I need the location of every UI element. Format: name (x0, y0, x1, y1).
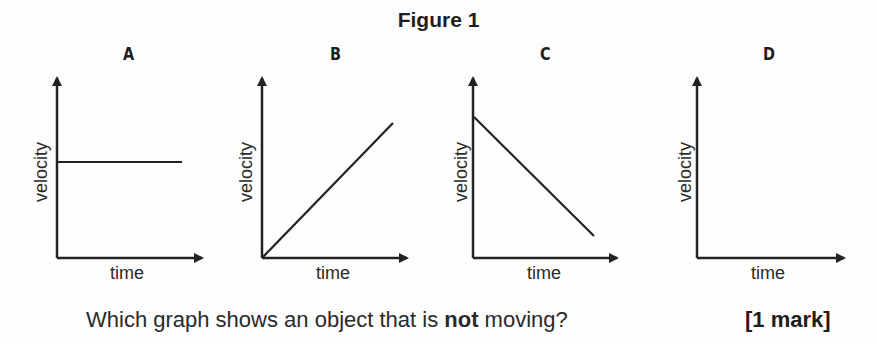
graphs-canvas (0, 0, 877, 300)
question-text: Which graph shows an object that is not … (86, 307, 568, 333)
marks-label: [1 mark] (745, 307, 831, 333)
y-axis-label-d: velocity (675, 142, 696, 202)
x-axis-label-c: time (527, 263, 561, 284)
question-emphasis: not (444, 307, 478, 332)
graph-a (57, 78, 202, 258)
x-axis-label-a: time (110, 263, 144, 284)
x-axis-label-d: time (751, 263, 785, 284)
y-axis-label-b: velocity (236, 142, 257, 202)
x-axis-label-b: time (316, 263, 350, 284)
graph-c (473, 78, 617, 258)
plot-line (262, 123, 393, 258)
question-prefix: Which graph shows an object that is (86, 307, 444, 332)
graph-d (697, 78, 844, 258)
plot-line (474, 117, 594, 236)
y-axis-label-c: velocity (451, 142, 472, 202)
graph-b (262, 78, 407, 258)
question-suffix: moving? (479, 307, 568, 332)
y-axis-label-a: velocity (31, 142, 52, 202)
